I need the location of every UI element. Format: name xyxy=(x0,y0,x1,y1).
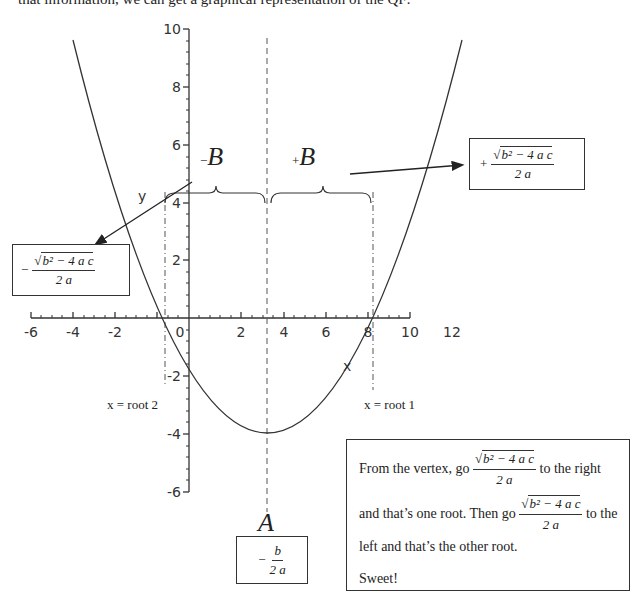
svg-text:4: 4 xyxy=(280,324,289,340)
explain-formula-2: √b² − 4 a c 2 a xyxy=(519,495,582,534)
y-axis-label: y xyxy=(138,188,146,204)
brace-plus-b xyxy=(271,186,371,203)
svg-text:-2: -2 xyxy=(108,324,122,340)
svg-text:2: 2 xyxy=(237,324,246,340)
svg-text:12: 12 xyxy=(443,324,461,340)
minus-formula-box: − √b² − 4 a c 2 a xyxy=(12,244,130,296)
svg-text:8: 8 xyxy=(172,79,181,95)
explain-formula-1: √b² − 4 a c 2 a xyxy=(473,450,536,489)
sweet-text: Sweet! xyxy=(359,570,629,588)
vertex-formula: b 2 a xyxy=(270,543,286,578)
svg-text:2: 2 xyxy=(172,252,181,268)
svg-text:-4: -4 xyxy=(66,324,80,340)
svg-text:6: 6 xyxy=(172,137,181,153)
plus-b-label: +B xyxy=(292,142,315,172)
x-tick-labels: -6 -4 -2 0 2 4 6 8 10 12 xyxy=(24,324,461,340)
vertex-formula-box: − b 2 a xyxy=(236,536,308,584)
svg-text:-6: -6 xyxy=(24,324,38,340)
svg-text:-6: -6 xyxy=(167,484,181,500)
y-tick-labels: -6 -4 -2 2 4 6 8 10 xyxy=(163,21,181,500)
y-axis xyxy=(183,29,189,492)
arrow-to-plus-formula xyxy=(350,165,462,174)
svg-text:-4: -4 xyxy=(167,426,181,442)
svg-text:4: 4 xyxy=(172,195,181,211)
minus-b-label: −B xyxy=(200,142,223,172)
a-label: A xyxy=(258,508,274,538)
svg-text:-2: -2 xyxy=(167,368,181,384)
plus-formula-box: + √b² − 4 a c 2 a xyxy=(469,138,585,190)
svg-text:10: 10 xyxy=(401,324,419,340)
svg-text:10: 10 xyxy=(163,21,181,37)
svg-text:0: 0 xyxy=(176,324,185,340)
minus-formula: √b² − 4 a c 2 a xyxy=(32,253,95,288)
root1-label: x = root 1 xyxy=(364,397,415,413)
svg-text:6: 6 xyxy=(322,324,331,340)
plus-formula: √b² − 4 a c 2 a xyxy=(491,147,554,182)
explanation-box: From the vertex, go √b² − 4 a c 2 a to t… xyxy=(346,439,630,591)
root2-label: x = root 2 xyxy=(107,397,158,413)
